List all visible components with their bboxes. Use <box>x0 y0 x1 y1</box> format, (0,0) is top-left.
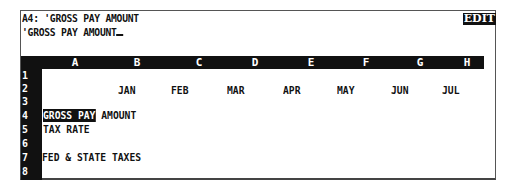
row-header-5[interactable]: 5 <box>22 123 28 136</box>
cell-a4-overflow-text: AMOUNT <box>95 109 136 122</box>
column-header-h[interactable]: H <box>462 56 472 69</box>
column-header-f[interactable]: F <box>361 56 371 69</box>
row-header-bar: 1 2 3 4 5 6 7 8 <box>21 69 42 180</box>
row-header-4[interactable]: 4 <box>22 109 28 122</box>
edit-line[interactable]: 'GROSS PAY AMOUNT <box>22 25 124 39</box>
cell-a4[interactable]: GROSS PAY AMOUNT <box>43 109 136 122</box>
row-header-1[interactable]: 1 <box>22 69 28 82</box>
column-header-e[interactable]: E <box>306 56 316 69</box>
row-header-6[interactable]: 6 <box>22 137 28 150</box>
cell-c2[interactable]: FEB <box>171 84 188 97</box>
cell-a7[interactable]: FED & STATE TAXES <box>42 151 141 164</box>
row-header-3[interactable]: 3 <box>22 95 28 108</box>
cell-contents: 'GROSS PAY AMOUNT <box>39 12 139 25</box>
column-header-c[interactable]: C <box>194 56 204 69</box>
cell-f2[interactable]: MAY <box>337 84 354 97</box>
cell-g2[interactable]: JUN <box>391 84 408 97</box>
row-header-7[interactable]: 7 <box>22 151 28 164</box>
column-header-bar: A B C D E F G H <box>21 56 484 69</box>
row-header-8[interactable]: 8 <box>22 165 28 178</box>
edit-input[interactable]: 'GROSS PAY AMOUNT <box>22 26 117 39</box>
spreadsheet-screen: A4: 'GROSS PAY AMOUNT 'GROSS PAY AMOUNT … <box>20 10 496 180</box>
cell-a5[interactable]: TAX RATE <box>43 123 90 136</box>
text-cursor <box>117 25 124 36</box>
column-header-a[interactable]: A <box>70 56 80 69</box>
mode-indicator: EDIT <box>463 13 496 25</box>
column-header-d[interactable]: D <box>250 56 260 69</box>
cell-h2[interactable]: JUL <box>442 84 459 97</box>
cell-e2[interactable]: APR <box>283 84 300 97</box>
cell-address: A4: <box>22 12 39 25</box>
row-header-2[interactable]: 2 <box>22 82 28 95</box>
column-header-g[interactable]: G <box>415 56 425 69</box>
cell-d2[interactable]: MAR <box>227 84 244 97</box>
column-header-b[interactable]: B <box>132 56 142 69</box>
cell-b2[interactable]: JAN <box>118 84 135 97</box>
cell-pointer-highlight: GROSS PAY <box>43 109 95 122</box>
cell-status-line: A4: 'GROSS PAY AMOUNT <box>22 13 139 25</box>
